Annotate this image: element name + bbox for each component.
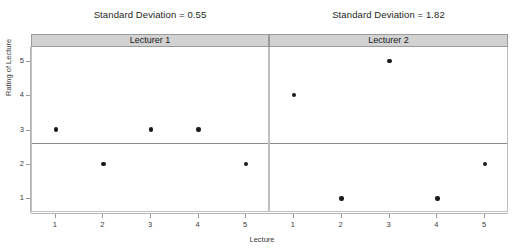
plot-area-lecturer-1	[31, 47, 269, 212]
data-point	[339, 196, 344, 201]
data-point	[54, 127, 59, 132]
data-point	[292, 93, 297, 98]
x-tick-label: 5	[472, 220, 496, 229]
x-tick-mark	[293, 214, 294, 218]
data-point	[435, 196, 440, 201]
x-tick-label: 5	[233, 220, 257, 229]
x-tick-mark	[389, 214, 390, 218]
data-point	[196, 127, 201, 132]
x-tick-mark	[245, 214, 246, 218]
x-axis-title: Lecture	[0, 235, 524, 244]
x-tick-mark	[55, 214, 56, 218]
panel-strip-lecturer-2: Lecturer 2	[269, 34, 508, 47]
x-tick-label: 3	[138, 220, 162, 229]
y-tick-mark	[26, 164, 30, 165]
data-point	[101, 162, 106, 167]
y-tick-label-text: 3	[4, 125, 24, 134]
data-point	[387, 59, 392, 64]
data-point	[149, 127, 154, 132]
x-tick-mark	[150, 214, 151, 218]
scatter-chart-panel-figure: Standard Deviation = 0.55 Standard Devia…	[0, 0, 524, 252]
mean-reference-line	[270, 143, 507, 144]
y-tick-mark	[26, 95, 30, 96]
plot-area-lecturer-2	[269, 47, 508, 212]
x-tick-label: 1	[281, 220, 305, 229]
y-tick-label-text: 2	[4, 159, 24, 168]
x-tick-label: 2	[90, 220, 114, 229]
x-tick-mark	[484, 214, 485, 218]
y-tick-label-text: 4	[4, 90, 24, 99]
y-tick-mark	[26, 61, 30, 62]
x-tick-mark	[436, 214, 437, 218]
y-axis-line	[30, 47, 31, 213]
panel-title-lecturer-2: Standard Deviation = 1.82	[269, 9, 508, 20]
mean-reference-line	[32, 143, 268, 144]
x-tick-label: 1	[43, 220, 67, 229]
y-tick-mark	[26, 130, 30, 131]
data-point	[244, 162, 249, 167]
x-tick-mark	[341, 214, 342, 218]
x-tick-label: 2	[329, 220, 353, 229]
x-tick-label: 4	[424, 220, 448, 229]
y-axis-title: Rating of Lecture	[4, 39, 13, 96]
y-tick-label-text: 1	[4, 193, 24, 202]
y-tick-mark	[26, 198, 30, 199]
x-tick-mark	[198, 214, 199, 218]
x-tick-label: 3	[377, 220, 401, 229]
x-tick-mark	[102, 214, 103, 218]
data-point	[483, 162, 488, 167]
x-tick-label: 4	[186, 220, 210, 229]
y-tick-label-text: 5	[4, 56, 24, 65]
panel-strip-lecturer-1: Lecturer 1	[31, 34, 269, 47]
panel-title-lecturer-1: Standard Deviation = 0.55	[31, 9, 269, 20]
